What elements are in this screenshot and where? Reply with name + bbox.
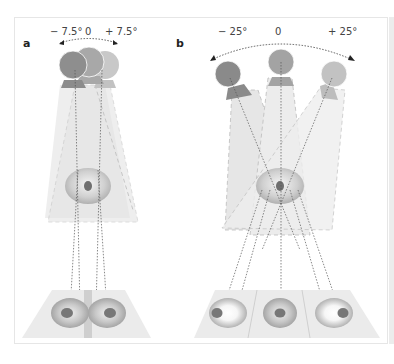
rotation-arc: [60, 39, 117, 44]
diagram-canvas: a − 7.5° 0 + 7.5°: [0, 0, 394, 364]
angle-center-label: 0: [275, 26, 281, 37]
arrow-right-icon: [348, 55, 355, 61]
angle-left-label: − 25°: [218, 26, 247, 37]
probe-left: [59, 51, 87, 88]
panel-a: a − 7.5° 0 + 7.5°: [22, 26, 151, 338]
pupil: [84, 181, 92, 191]
arrow-left-icon: [59, 40, 64, 45]
angle-right-label: + 25°: [328, 26, 357, 37]
arrow-right-icon: [113, 40, 118, 45]
panel-b: b − 25° 0 + 25°: [176, 26, 380, 338]
panel-a-label: a: [23, 37, 30, 50]
arrow-left-icon: [210, 55, 216, 61]
panel-b-label: b: [176, 37, 184, 50]
pupil: [276, 181, 284, 191]
angle-center-label: 0: [85, 26, 91, 37]
probe-left: [215, 61, 252, 100]
angle-right-label: + 7.5°: [105, 26, 137, 37]
angle-left-label: − 7.5°: [50, 26, 82, 37]
